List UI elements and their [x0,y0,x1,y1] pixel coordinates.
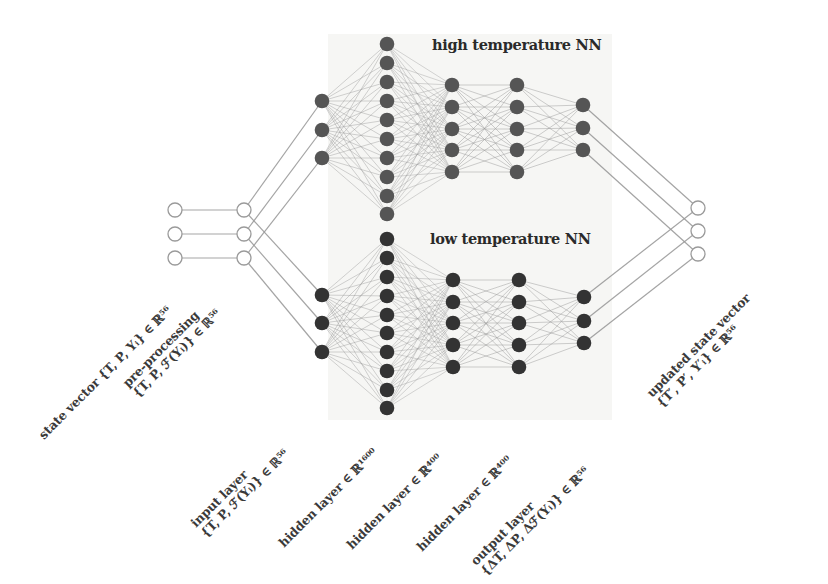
state-vector-node [168,251,182,265]
low-hidden3-node [512,316,527,331]
low-hidden1-node [380,308,395,323]
edge [322,352,387,390]
high-input-node [315,94,330,109]
low-hidden3-node [512,273,527,288]
high-hidden2-node [445,143,460,158]
edge [322,120,387,130]
high-hidden1-node [380,207,395,222]
high-hidden1-node [380,75,395,90]
network-graph [0,0,828,584]
low-output-node [577,290,592,305]
pre-processing-node [237,251,251,265]
low-hidden3-node [512,338,527,353]
edge [519,297,584,367]
edge [583,128,698,231]
edge [583,150,698,254]
edge [519,321,584,367]
edge [322,158,387,177]
edge [387,172,452,196]
edge [517,128,583,129]
high-hidden1-node [380,37,395,52]
low-hidden1-node [380,251,395,266]
edge [244,210,322,295]
edge [322,101,387,214]
edge [387,258,453,280]
high-hidden3-node [510,143,525,158]
edge [244,158,322,258]
edge [519,343,584,367]
high-hidden1-node [380,151,395,166]
edge [387,63,452,107]
edge [244,258,322,352]
high-hidden1-node [380,189,395,204]
pre-processing-node [237,203,251,217]
edge [322,158,387,196]
edge [322,82,387,101]
high-hidden1-node [380,170,395,185]
edge [322,323,387,371]
high-input-node [315,123,330,138]
low-hidden2-node [446,295,461,310]
edge [584,231,698,321]
edge [322,239,387,323]
edge [387,258,453,302]
edge [517,107,583,128]
edge [584,208,698,297]
state-vector-node [168,203,182,217]
high-output-node [576,143,591,158]
high-hidden2-node [445,165,460,180]
edge [244,234,322,323]
edge [322,258,387,323]
low-hidden2-node [446,316,461,331]
high-hidden1-node [380,94,395,109]
updated-state-node [691,201,705,215]
high-hidden1-node [380,132,395,147]
edge [519,302,584,321]
low-input-node [315,345,330,360]
edge [322,277,387,352]
high-hidden2-node [445,100,460,115]
high-hidden1-node [380,56,395,71]
edge [517,150,583,172]
low-hidden1-node [380,401,395,416]
low-hidden1-node [380,289,395,304]
edge [322,352,387,371]
low-temperature-nn-title: low temperature NN [430,230,591,247]
high-hidden3-node [510,78,525,93]
high-hidden2-node [445,122,460,137]
edge [244,101,322,210]
edge [583,105,698,208]
state-vector-node [168,227,182,241]
high-hidden3-node [510,165,525,180]
low-input-node [315,288,330,303]
pre-processing-node [237,227,251,241]
edge [322,277,387,295]
edge [244,130,322,234]
high-output-node [576,98,591,113]
edge [322,130,387,214]
high-hidden1-node [380,113,395,128]
low-hidden1-node [380,383,395,398]
low-hidden1-node [380,232,395,247]
low-hidden1-node [380,364,395,379]
edge [387,129,452,196]
updated-state-node [691,224,705,238]
edge [584,254,698,343]
updated-state-node [691,247,705,261]
high-hidden2-node [445,78,460,93]
high-output-node [576,121,591,136]
low-hidden2-node [446,360,461,375]
low-hidden1-node [380,326,395,341]
edge [322,258,387,295]
edge [387,63,452,85]
edges [175,44,698,408]
low-hidden3-node [512,295,527,310]
low-input-node [315,316,330,331]
edge [322,63,387,101]
edge [387,82,452,107]
high-hidden3-node [510,100,525,115]
edge [322,82,387,130]
edge [322,139,387,158]
edge [387,172,452,214]
high-temperature-nn-title: high temperature NN [432,36,601,53]
